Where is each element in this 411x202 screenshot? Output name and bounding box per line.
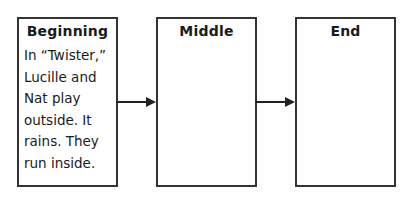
arrow-icon: [116, 101, 154, 103]
end-title: End: [297, 23, 394, 39]
arrow-icon: [255, 101, 293, 103]
end-box: End: [295, 17, 396, 187]
middle-title: Middle: [158, 23, 255, 39]
story-sequence-diagram: Beginning In “Twister,” Lucille and Nat …: [0, 0, 411, 202]
beginning-text: In “Twister,” Lucille and Nat play outsi…: [24, 45, 114, 174]
beginning-title: Beginning: [19, 23, 116, 39]
middle-box: Middle: [156, 17, 257, 187]
beginning-box: Beginning In “Twister,” Lucille and Nat …: [17, 17, 118, 187]
